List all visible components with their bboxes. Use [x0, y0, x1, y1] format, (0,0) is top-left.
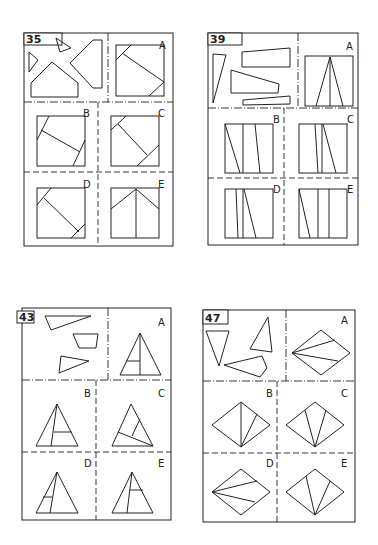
option-cut-line	[315, 481, 330, 515]
puzzle-piece	[31, 62, 78, 97]
option-cut-line	[323, 124, 336, 173]
option-square	[299, 189, 347, 238]
puzzle-piece	[73, 334, 98, 348]
option-cut-line	[244, 189, 256, 238]
option-label: B	[266, 388, 273, 399]
option-cut-line	[255, 124, 260, 173]
puzzle-piece	[206, 331, 229, 366]
option-cut-line	[299, 189, 310, 238]
puzzle-number: 47	[205, 312, 220, 325]
option-cut-line	[136, 189, 159, 209]
option-label: E	[158, 458, 164, 469]
option-cut-line	[225, 124, 240, 173]
option-cut-line	[241, 414, 257, 447]
option-cut-line	[132, 419, 140, 436]
answer-option-e[interactable]: E	[286, 458, 347, 515]
option-cut-line	[44, 198, 79, 232]
option-triangle	[36, 472, 78, 513]
puzzle-39: 39ABCDE	[208, 33, 358, 245]
option-cut-line	[330, 57, 343, 106]
puzzle-piece	[213, 54, 226, 103]
puzzle-piece	[243, 96, 290, 105]
option-triangle	[112, 404, 153, 446]
option-diamond	[286, 469, 344, 515]
puzzle-piece	[242, 48, 290, 67]
option-triangle	[36, 404, 78, 446]
puzzle-piece	[250, 317, 272, 352]
option-label: A	[341, 315, 348, 326]
option-label: A	[346, 41, 353, 52]
option-diamond	[212, 469, 270, 515]
answer-option-b[interactable]: B	[36, 388, 91, 446]
option-cut-line	[305, 410, 315, 447]
answer-option-c[interactable]: C	[286, 388, 348, 447]
option-cut-line	[316, 57, 330, 106]
puzzle-piece	[231, 70, 279, 93]
puzzle-piece	[224, 356, 267, 377]
answer-option-b[interactable]: B	[212, 388, 273, 447]
option-label: B	[83, 108, 90, 119]
option-cut-line	[292, 353, 338, 361]
option-label: C	[341, 388, 348, 399]
answer-option-c[interactable]: C	[299, 114, 354, 173]
puzzle-47: 47ABCDE	[203, 310, 355, 522]
answer-option-d[interactable]: D	[212, 458, 274, 515]
puzzle-number: 43	[19, 311, 34, 324]
option-triangle	[112, 472, 153, 513]
option-label: D	[266, 458, 274, 469]
option-cut-line	[73, 140, 85, 166]
option-label: C	[158, 388, 165, 399]
answer-option-e[interactable]: E	[111, 179, 164, 238]
puzzle-piece	[56, 38, 71, 52]
answer-option-b[interactable]: B	[225, 114, 280, 173]
answer-option-c[interactable]: C	[112, 388, 165, 446]
option-label: D	[84, 458, 92, 469]
puzzle-sheet: 35ABCDE39ABCDE43ABCDE47ABCDE	[0, 0, 378, 545]
answer-option-a[interactable]: A	[292, 315, 350, 375]
option-cut-line	[118, 124, 147, 155]
puzzle-piece	[59, 356, 89, 373]
option-label: E	[347, 184, 353, 195]
puzzle-frame	[208, 33, 358, 245]
option-cut-line	[111, 116, 126, 130]
puzzle-43: 43ABCDE	[17, 308, 171, 520]
option-square	[299, 124, 347, 173]
answer-option-a[interactable]: A	[305, 41, 353, 106]
puzzle-number: 35	[26, 33, 41, 46]
answer-option-b[interactable]: B	[37, 108, 90, 166]
puzzle-number: 39	[210, 33, 225, 46]
option-label: B	[84, 388, 91, 399]
option-cut-line	[315, 410, 326, 447]
answer-option-a[interactable]: A	[120, 317, 165, 375]
puzzle-piece	[45, 316, 91, 330]
option-label: E	[341, 458, 347, 469]
puzzle-frame	[24, 33, 173, 246]
puzzle-piece	[29, 52, 38, 72]
option-square	[225, 189, 273, 238]
option-square	[111, 188, 159, 238]
option-cut-line	[122, 53, 164, 82]
option-square	[305, 56, 353, 106]
option-cut-line	[236, 189, 238, 238]
option-label: D	[273, 184, 281, 195]
option-cut-line	[149, 82, 164, 96]
option-diamond	[286, 402, 344, 447]
option-cut-line	[111, 189, 136, 209]
option-cut-line	[315, 124, 318, 173]
option-cut-line	[118, 432, 153, 446]
answer-option-d[interactable]: D	[225, 184, 281, 238]
answer-option-a[interactable]: A	[116, 40, 166, 96]
answer-option-e[interactable]: E	[299, 184, 353, 238]
option-cut-line	[41, 130, 80, 152]
option-label: C	[347, 114, 354, 125]
answer-option-e[interactable]: E	[112, 458, 164, 513]
option-cut-line	[37, 116, 49, 140]
puzzle-frame	[22, 308, 171, 520]
option-diamond	[292, 330, 350, 375]
option-cut-line	[292, 340, 335, 353]
answer-option-d[interactable]: D	[36, 458, 92, 513]
option-label: B	[273, 114, 280, 125]
option-label: A	[158, 317, 165, 328]
answer-option-d[interactable]: D	[37, 179, 91, 238]
answer-option-c[interactable]: C	[111, 108, 165, 166]
